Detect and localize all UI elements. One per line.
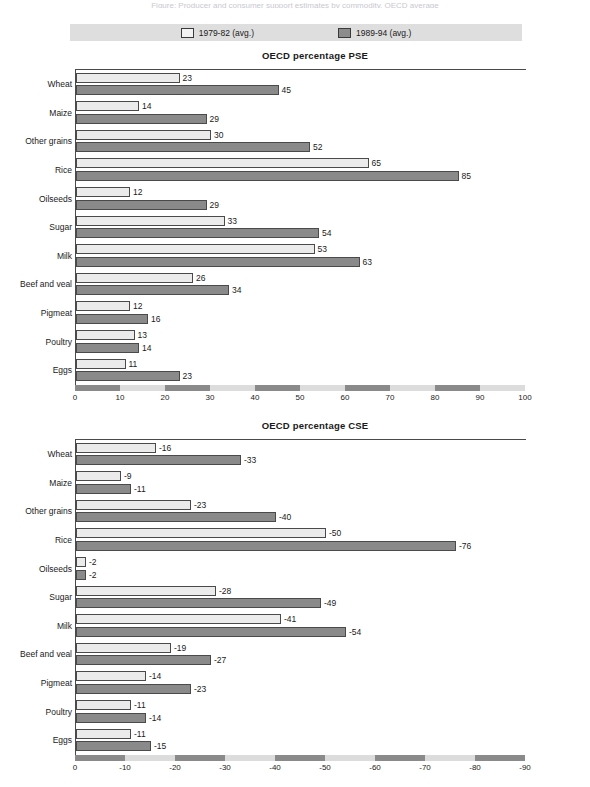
bar-value-label: 14: [142, 343, 151, 353]
bar: [76, 671, 146, 681]
bar: [76, 713, 146, 723]
bar-value-label: -54: [349, 627, 361, 637]
bar: [76, 301, 130, 311]
bar-group: -41: [76, 614, 296, 624]
legend-swatch-light-icon: [181, 28, 194, 38]
category-label: Sugar: [49, 222, 72, 232]
bar-row: Maize1429: [76, 99, 526, 128]
bar-group: -14: [76, 671, 161, 681]
x-tick-label: 70: [386, 393, 395, 402]
category-label: Other grains: [25, 136, 72, 146]
bar: [76, 216, 225, 226]
bar-value-label: -23: [194, 684, 206, 694]
bar-row: Sugar-28-49: [76, 583, 526, 612]
x-tick-label: 80: [431, 393, 440, 402]
bar-value-label: -2: [89, 570, 97, 580]
plot-area-pse: Wheat2345Maize1429Other grains3052Rice65…: [75, 69, 526, 385]
category-label: Rice: [55, 165, 72, 175]
bar-value-label: 53: [318, 244, 327, 254]
bar-group: 33: [76, 216, 237, 226]
bar-group: -27: [76, 655, 226, 665]
bar: [76, 655, 211, 665]
x-tick-label: -80: [469, 763, 481, 772]
bar-row: Pigmeat-14-23: [76, 669, 526, 698]
category-label: Wheat: [47, 79, 72, 89]
legend-label-1989-94: 1989-94 (avg.): [356, 28, 411, 38]
bar-group: -28: [76, 586, 231, 596]
bar-value-label: 14: [142, 101, 151, 111]
bar-value-label: -14: [149, 671, 161, 681]
bar-group: -9: [76, 471, 132, 481]
bar: [76, 330, 135, 340]
bar: [76, 557, 86, 567]
bar: [76, 528, 326, 538]
bar: [76, 101, 139, 111]
category-label: Eggs: [53, 735, 72, 745]
bar-value-label: -16: [159, 443, 171, 453]
bar-group: -54: [76, 627, 361, 637]
bar-group: 53: [76, 244, 327, 254]
bar-group: 45: [76, 85, 291, 95]
category-label: Pigmeat: [41, 678, 72, 688]
bar: [76, 314, 148, 324]
bar-row: Beef and veal-19-27: [76, 640, 526, 669]
chart-title-cse: OECD percentage CSE: [0, 420, 590, 431]
category-label: Pigmeat: [41, 308, 72, 318]
bar: [76, 455, 241, 465]
bar-value-label: 54: [322, 228, 331, 238]
bar-group: -11: [76, 700, 146, 710]
bar-row: Beef and veal2634: [76, 270, 526, 299]
bar-row: Eggs1123: [76, 356, 526, 385]
bar: [76, 586, 216, 596]
bar-value-label: 45: [282, 85, 291, 95]
chart-oecd-percentage-pse: OECD percentage PSE Wheat2345Maize1429Ot…: [0, 50, 590, 412]
bar: [76, 244, 315, 254]
bar-group: 85: [76, 171, 471, 181]
x-tick-label: -10: [119, 763, 131, 772]
bar-row: Milk5363: [76, 242, 526, 271]
bar-group: -16: [76, 443, 171, 453]
x-tick-label: -40: [269, 763, 281, 772]
bar: [76, 343, 139, 353]
bar: [76, 627, 346, 637]
top-caption: Figure: Producer and consumer support es…: [0, 0, 590, 8]
bar-row: Maize-9-11: [76, 469, 526, 498]
bar: [76, 114, 207, 124]
bar: [76, 73, 180, 83]
bar-value-label: 34: [232, 285, 241, 295]
bar-group: -23: [76, 684, 206, 694]
bar: [76, 541, 456, 551]
bar-group: 11: [76, 359, 137, 369]
bar-value-label: 29: [210, 114, 219, 124]
category-label: Oilseeds: [39, 564, 72, 574]
bar-value-label: -28: [219, 586, 231, 596]
bar-group: -11: [76, 729, 146, 739]
category-label: Oilseeds: [39, 194, 72, 204]
bar-group: 16: [76, 314, 160, 324]
x-tick-label: -90: [519, 763, 531, 772]
chart-oecd-percentage-cse: OECD percentage CSE Wheat-16-33Maize-9-1…: [0, 420, 590, 782]
bar-row: Rice-50-76: [76, 526, 526, 555]
bar-value-label: -14: [149, 713, 161, 723]
bar: [76, 142, 310, 152]
bar-row: Sugar3354: [76, 213, 526, 242]
bar-value-label: -15: [154, 741, 166, 751]
bar: [76, 359, 126, 369]
bar-value-label: -50: [329, 528, 341, 538]
bar-group: -2: [76, 557, 97, 567]
bar: [76, 643, 171, 653]
bar-value-label: -11: [134, 700, 146, 710]
bar: [76, 443, 156, 453]
bar-row: Oilseeds1229: [76, 184, 526, 213]
bar: [76, 228, 319, 238]
category-label: Milk: [57, 621, 72, 631]
bar-value-label: -19: [174, 643, 186, 653]
bar: [76, 187, 130, 197]
bar-value-label: 30: [214, 130, 223, 140]
bar-group: -40: [76, 512, 291, 522]
bar: [76, 484, 131, 494]
x-tick-label: 30: [206, 393, 215, 402]
bar-group: -19: [76, 643, 186, 653]
x-axis-ticks-pse: 0102030405060708090100: [75, 391, 525, 405]
bar: [76, 741, 151, 751]
